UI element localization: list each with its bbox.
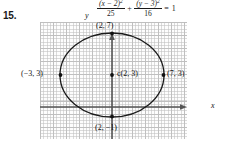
fraction-2-denominator: 16 bbox=[142, 10, 154, 18]
point-bottom-vertex bbox=[110, 115, 114, 119]
equation-equals-sign: = bbox=[164, 4, 169, 13]
x-axis bbox=[40, 104, 187, 110]
label-bottom-vertex: (2, −1) bbox=[95, 123, 117, 132]
point-top-vertex bbox=[110, 32, 114, 36]
fraction-2-numerator-base: (y − 3) bbox=[136, 0, 157, 8]
graph-vector-layer bbox=[40, 22, 187, 139]
label-right-vertex: (7, 3) bbox=[167, 69, 184, 78]
point-center bbox=[110, 73, 114, 77]
coordinate-plane bbox=[40, 22, 187, 139]
label-top-vertex: (2, 7) bbox=[96, 21, 113, 30]
fraction-1-exponent: 2 bbox=[120, 0, 123, 4]
point-left-vertex bbox=[59, 73, 63, 77]
x-axis-label: x bbox=[211, 101, 215, 110]
equation-fraction-1: (x − 2)2 25 bbox=[97, 0, 125, 17]
label-center: c(2, 3) bbox=[117, 69, 138, 78]
equation-plus-sign: + bbox=[127, 4, 132, 13]
y-axis-label: y bbox=[85, 11, 89, 20]
fraction-1-numerator: (x − 2)2 bbox=[97, 0, 125, 8]
fraction-2-numerator: (y − 3)2 bbox=[134, 0, 162, 8]
ellipse-equation: (x − 2)2 25 + (y − 3)2 16 = 1 bbox=[96, 0, 177, 17]
fraction-2-exponent: 2 bbox=[157, 0, 160, 4]
equation-right-hand-side: 1 bbox=[172, 4, 176, 13]
figure-root: 15. (x − 2)2 25 + (y − 3)2 16 = 1 bbox=[0, 0, 226, 150]
equation-fraction-2: (y − 3)2 16 bbox=[134, 0, 162, 17]
fraction-1-numerator-base: (x − 2) bbox=[99, 0, 120, 8]
point-right-vertex bbox=[162, 73, 166, 77]
fraction-1-denominator: 25 bbox=[105, 10, 117, 18]
problem-number: 15. bbox=[3, 10, 16, 21]
label-left-vertex: (−3, 3) bbox=[21, 69, 43, 78]
